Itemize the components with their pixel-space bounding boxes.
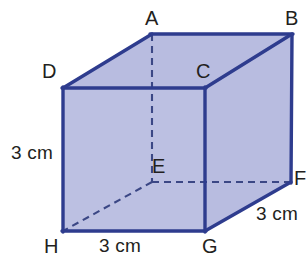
edge-bf (291, 35, 292, 183)
vertex-label-d: D (42, 61, 56, 81)
vertex-label-h: H (44, 236, 58, 256)
vertex-label-f: F (294, 168, 306, 188)
vertex-label-b: B (285, 8, 298, 28)
vertex-label-e: E (152, 156, 165, 176)
vertex-label-g: G (202, 236, 218, 256)
cuboid-figure: A B C D E F G H 3 cm 3 cm 3 cm (0, 0, 308, 263)
dimension-label-height: 3 cm (11, 143, 53, 162)
cuboid-front-face (63, 88, 205, 231)
dimension-label-width: 3 cm (99, 236, 141, 255)
vertex-label-a: A (145, 8, 158, 28)
vertex-label-c: C (196, 61, 210, 81)
dimension-label-depth: 3 cm (256, 204, 298, 223)
